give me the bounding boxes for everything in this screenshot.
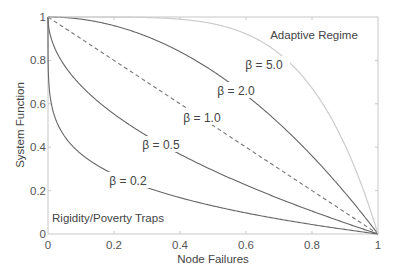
x-tick-label: 0 xyxy=(45,239,51,251)
curve-label-beta-5: β = 5.0 xyxy=(245,58,283,72)
chart: 0 0.2 0.4 0.6 0.8 1 0 0.2 0.4 0.6 0.8 1 … xyxy=(0,0,396,270)
y-tick-label: 1 xyxy=(40,11,46,23)
x-tick-label: 0.4 xyxy=(172,239,189,251)
x-axis-label: Node Failures xyxy=(177,253,249,265)
y-tick-labels: 0 0.2 0.4 0.6 0.8 1 xyxy=(30,11,47,240)
curve-label-beta-2: β = 2.0 xyxy=(217,84,255,98)
x-tick-label: 0.8 xyxy=(304,239,320,251)
rigidity-traps-label: Rigidity/Poverty Traps xyxy=(52,212,164,224)
x-tick-label: 0.2 xyxy=(106,239,122,251)
y-tick-label: 0 xyxy=(40,228,46,240)
curves xyxy=(48,17,378,234)
y-tick-label: 0.2 xyxy=(30,185,46,197)
x-tick-label: 0.6 xyxy=(238,239,254,251)
curve-label-beta-02: β = 0.2 xyxy=(109,174,147,188)
y-axis-label: System Function xyxy=(14,82,26,168)
x-tick-label: 1 xyxy=(375,239,381,251)
curve-1-0 xyxy=(48,17,378,234)
curve-label-beta-05: β = 0.5 xyxy=(142,138,180,152)
y-tick-label: 0.6 xyxy=(30,98,46,110)
y-tick-label: 0.4 xyxy=(30,141,47,153)
curve-label-beta-1: β = 1.0 xyxy=(183,111,221,125)
adaptive-regime-label: Adaptive Regime xyxy=(270,29,358,41)
y-tick-label: 0.8 xyxy=(30,54,46,66)
x-tick-labels: 0 0.2 0.4 0.6 0.8 1 xyxy=(45,239,381,251)
